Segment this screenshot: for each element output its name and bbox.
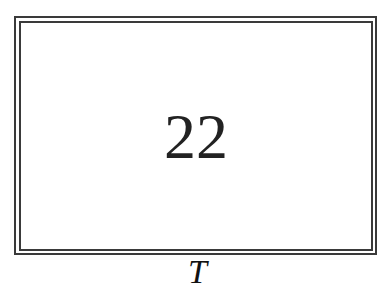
card-number: 22 [19, 21, 373, 251]
card-caption: T [0, 255, 391, 287]
